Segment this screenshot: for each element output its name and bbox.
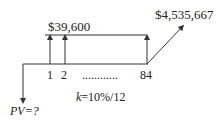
period-label-1: 1 <box>47 68 53 82</box>
pv-label: PV=? <box>9 104 39 118</box>
ellipsis-label: ............ <box>82 68 118 82</box>
payment-label: $39,600 <box>48 19 90 34</box>
rate-value: =10%/12 <box>81 90 125 104</box>
future-value-arrow <box>147 27 182 64</box>
period-label-84: 84 <box>140 68 152 82</box>
cash-flow-diagram: $39,600 $4,535,667 1 2 ............ 84 k… <box>0 0 221 125</box>
period-label-2: 2 <box>61 68 67 82</box>
future-value-label: $4,535,667 <box>155 7 214 22</box>
rate-label: k=10%/12 <box>76 90 125 104</box>
